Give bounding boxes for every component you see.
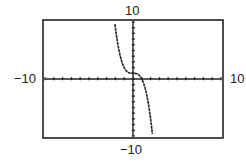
xmin-label: −10 xyxy=(14,72,36,85)
xmax-label: 10 xyxy=(230,72,244,85)
graph-window xyxy=(0,0,246,162)
ymin-label: −10 xyxy=(120,143,142,156)
axes xyxy=(45,22,221,136)
ymax-label: 10 xyxy=(125,4,139,17)
